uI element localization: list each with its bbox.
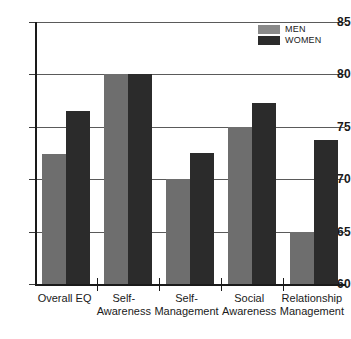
bar-men[interactable] xyxy=(290,232,314,284)
bar-men[interactable] xyxy=(42,154,66,284)
legend-item[interactable]: WOMEN xyxy=(258,36,322,45)
bar-women[interactable] xyxy=(66,111,90,284)
legend-label: MEN xyxy=(285,25,306,34)
legend: MENWOMEN xyxy=(258,25,322,45)
bar-group xyxy=(35,22,97,284)
bar-men[interactable] xyxy=(166,179,190,284)
bar-group xyxy=(159,22,221,284)
bar-men[interactable] xyxy=(104,74,128,284)
bar-groups xyxy=(35,22,345,284)
bar-chart: 606570758085 Overall EQSelf- AwarenessSe… xyxy=(0,0,351,339)
bar-women[interactable] xyxy=(314,140,338,284)
x-axis-line xyxy=(35,284,346,286)
bar-women[interactable] xyxy=(252,103,276,284)
x-axis-separator xyxy=(283,278,284,291)
bar-women[interactable] xyxy=(128,74,152,284)
legend-label: WOMEN xyxy=(285,36,322,45)
x-axis-label: Relationship Management xyxy=(279,292,345,318)
x-axis-separator xyxy=(159,278,160,291)
legend-swatch-women xyxy=(258,36,280,45)
x-axis-separator xyxy=(221,278,222,291)
x-axis-labels: Overall EQSelf- AwarenessSelf- Managemen… xyxy=(35,292,345,318)
bar-group xyxy=(221,22,283,284)
x-axis-label: Overall EQ xyxy=(35,292,94,318)
x-axis-label: Self- Awareness xyxy=(94,292,153,318)
bar-group xyxy=(283,22,345,284)
bar-women[interactable] xyxy=(190,153,214,284)
legend-item[interactable]: MEN xyxy=(258,25,322,34)
x-axis-label: Self- Management xyxy=(153,292,219,318)
bar-group xyxy=(97,22,159,284)
x-axis-separator xyxy=(97,278,98,291)
x-axis-label: Social Awareness xyxy=(220,292,279,318)
legend-swatch-men xyxy=(258,25,280,34)
bar-men[interactable] xyxy=(228,127,252,284)
